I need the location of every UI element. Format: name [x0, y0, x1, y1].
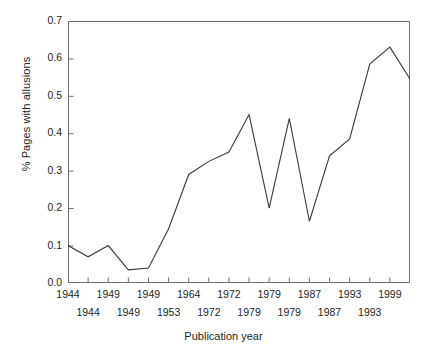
y-tick-label: 0.7	[28, 15, 62, 26]
x-tick-label: 1944	[48, 288, 88, 300]
plot-frame	[69, 22, 410, 283]
y-tick-label: 0.2	[28, 202, 62, 213]
x-tick-label: 1987	[310, 306, 350, 318]
y-tick-label: 0.1	[28, 240, 62, 251]
plot-area	[68, 21, 410, 283]
x-axis-tick-labels-row2: 19441949195319721979197919871993	[0, 306, 447, 322]
x-tick-label: 1999	[370, 288, 410, 300]
x-tick-label: 1964	[169, 288, 209, 300]
x-tick-label: 1993	[330, 288, 370, 300]
x-tick-label: 1949	[108, 306, 148, 318]
x-tick-label: 1972	[189, 306, 229, 318]
y-tick-label: 0.0	[28, 277, 62, 288]
y-axis-tick-labels: 0.7 0.6 0.5 0.4 0.3 0.2 0.1 0.0	[22, 0, 62, 358]
x-tick-label: 1944	[68, 306, 108, 318]
x-tick-label: 1979	[229, 306, 269, 318]
x-tick-label: 1979	[269, 306, 309, 318]
x-tick-marks	[69, 278, 410, 283]
x-tick-label: 1993	[350, 306, 390, 318]
x-tick-label: 1949	[88, 288, 128, 300]
x-axis-tick-labels-row1: 194419491949196419721979198719931999	[0, 288, 447, 304]
x-tick-label: 1953	[149, 306, 189, 318]
y-tick-label: 0.5	[28, 90, 62, 101]
y-tick-marks	[69, 22, 74, 283]
y-tick-label: 0.6	[28, 52, 62, 63]
x-axis-title: Publication year	[0, 330, 447, 342]
y-tick-label: 0.3	[28, 165, 62, 176]
x-tick-label: 1979	[249, 288, 289, 300]
data-series-line	[68, 47, 410, 270]
chart-figure: % Pages with allusions 0.7 0.6 0.5 0.4 0…	[0, 0, 447, 358]
x-tick-label: 1972	[209, 288, 249, 300]
y-tick-label: 0.4	[28, 127, 62, 138]
x-tick-label: 1949	[128, 288, 168, 300]
chart-svg	[68, 21, 410, 283]
x-tick-label: 1987	[289, 288, 329, 300]
